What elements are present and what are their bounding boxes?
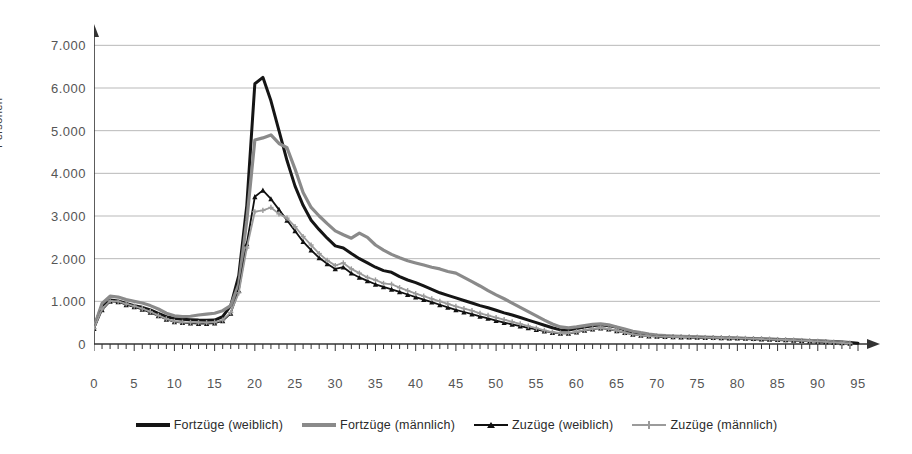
chart-canvas bbox=[94, 24, 880, 368]
legend-item[interactable]: Zuzüge (männlich) bbox=[631, 418, 777, 432]
x-tick-label: 70 bbox=[649, 376, 664, 391]
chart-figure: Personen 01.0002.0003.0004.0005.0006.000… bbox=[0, 0, 912, 454]
legend-swatch-plus-icon bbox=[631, 419, 667, 431]
x-tick-label: 60 bbox=[569, 376, 584, 391]
series-line-0 bbox=[94, 77, 858, 343]
legend-item[interactable]: Fortzüge (weiblich) bbox=[135, 418, 283, 432]
x-tick-label: 35 bbox=[368, 376, 383, 391]
legend-label: Zuzüge (männlich) bbox=[670, 418, 777, 432]
plot-area bbox=[94, 24, 880, 368]
x-tick-label: 80 bbox=[730, 376, 745, 391]
y-tick-label: 4.000 bbox=[51, 166, 86, 181]
legend-item[interactable]: Zuzüge (weiblich) bbox=[473, 418, 613, 432]
y-tick-label: 5.000 bbox=[51, 123, 86, 138]
x-axis-tick-labels: 05101520253035404550556065707580859095 bbox=[94, 376, 880, 396]
legend-item[interactable]: Fortzüge (männlich) bbox=[301, 418, 455, 432]
x-tick-label: 65 bbox=[609, 376, 624, 391]
x-axis-arrow bbox=[867, 339, 880, 349]
x-tick-label: 45 bbox=[448, 376, 463, 391]
x-tick-label: 20 bbox=[247, 376, 262, 391]
legend-label: Fortzüge (männlich) bbox=[340, 418, 455, 432]
x-tick-label: 15 bbox=[207, 376, 222, 391]
x-tick-label: 5 bbox=[130, 376, 138, 391]
y-tick-label: 7.000 bbox=[51, 38, 86, 53]
y-tick-label: 6.000 bbox=[51, 81, 86, 96]
y-tick-label: 3.000 bbox=[51, 209, 86, 224]
legend-swatch-none-icon bbox=[135, 419, 171, 431]
x-tick-label: 95 bbox=[850, 376, 865, 391]
y-axis-arrow bbox=[94, 24, 99, 37]
y-tick-label: 2.000 bbox=[51, 251, 86, 266]
legend-label: Zuzüge (weiblich) bbox=[512, 418, 613, 432]
y-tick-label: 1.000 bbox=[51, 294, 86, 309]
x-tick-label: 40 bbox=[408, 376, 423, 391]
x-tick-label: 75 bbox=[689, 376, 704, 391]
x-tick-label: 0 bbox=[90, 376, 98, 391]
chart-legend: Fortzüge (weiblich)Fortzüge (männlich)Zu… bbox=[0, 412, 912, 438]
x-tick-label: 85 bbox=[770, 376, 785, 391]
x-tick-label: 90 bbox=[810, 376, 825, 391]
x-tick-label: 50 bbox=[488, 376, 503, 391]
series-marker-2 bbox=[260, 188, 265, 193]
legend-label: Fortzüge (weiblich) bbox=[174, 418, 283, 432]
y-axis-tick-labels: 01.0002.0003.0004.0005.0006.0007.000 bbox=[0, 24, 86, 368]
legend-swatch-none-icon bbox=[301, 419, 337, 431]
x-tick-label: 10 bbox=[167, 376, 182, 391]
y-tick-label: 0 bbox=[78, 337, 86, 352]
x-tick-label: 55 bbox=[529, 376, 544, 391]
x-tick-label: 25 bbox=[287, 376, 302, 391]
x-tick-label: 30 bbox=[328, 376, 343, 391]
legend-swatch-triangle-icon bbox=[473, 419, 509, 431]
